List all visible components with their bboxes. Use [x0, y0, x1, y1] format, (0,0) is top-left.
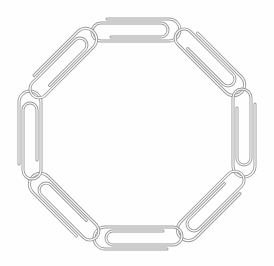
paperclip-bottom-left [25, 169, 103, 247]
paperclip-bottom-right [173, 167, 251, 245]
paperclip-chain-drawing [0, 0, 274, 266]
paperclip-bottom [94, 227, 182, 249]
paperclip-top-left [23, 24, 101, 102]
paperclip-right [233, 89, 255, 177]
paperclip-top [92, 19, 180, 41]
paperclip-octagon-image [0, 0, 274, 266]
paperclip-left [19, 91, 41, 179]
